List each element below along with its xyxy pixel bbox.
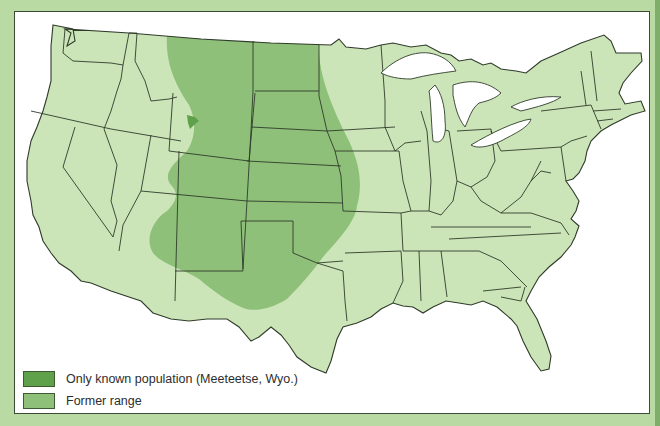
legend-label: Former range [66,394,142,408]
known-population-swatch [23,371,55,387]
legend-label: Only known population (Meeteetse, Wyo.) [66,372,298,386]
us-map [15,12,650,414]
page-edge-strip [655,0,660,426]
former-range-swatch [23,393,55,409]
legend-item-known-population: Only known population (Meeteetse, Wyo.) [23,368,298,390]
legend-item-former-range: Former range [23,390,298,412]
map-legend: Only known population (Meeteetse, Wyo.) … [23,368,298,412]
map-frame: Only known population (Meeteetse, Wyo.) … [14,11,650,414]
